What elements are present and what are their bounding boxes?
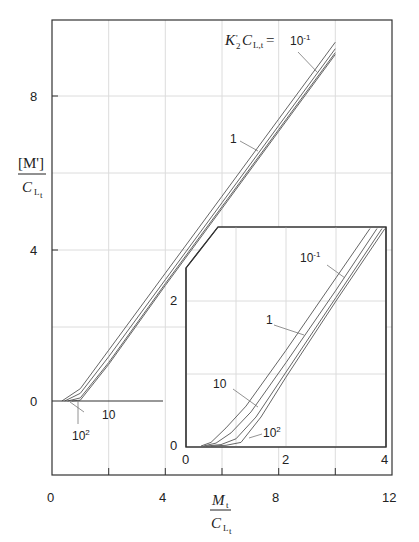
- ann-inset-1: 1: [266, 313, 273, 327]
- inset-x-tick-2: 2: [282, 452, 289, 467]
- x-tick-8: 8: [272, 490, 279, 505]
- svg-text:C: C: [211, 515, 222, 531]
- x-axis-label: M t C L t: [210, 492, 232, 536]
- x-tick-12: 12: [382, 490, 396, 505]
- inset-x-tick-0: 0: [182, 452, 189, 467]
- ann-main-1: 1: [230, 132, 237, 146]
- inset-y-tick-2: 2: [170, 293, 177, 308]
- svg-text:K: K: [224, 32, 236, 48]
- ann-main-10: 10: [102, 408, 116, 422]
- svg-text:L: L: [34, 187, 40, 197]
- x-tick-0: 0: [47, 490, 54, 505]
- inset-x-tick-4: 4: [381, 452, 388, 467]
- legend-title: K ' 2 C L,t =: [224, 32, 274, 51]
- svg-text:t: t: [40, 190, 43, 200]
- ann-inset-10: 10: [213, 377, 227, 391]
- svg-text:=: =: [266, 32, 274, 48]
- svg-text:2: 2: [236, 41, 241, 51]
- y-tick-0: 0: [30, 394, 37, 409]
- ann-main-10e2: 102: [72, 428, 90, 443]
- svg-text:t: t: [229, 526, 232, 536]
- svg-text:C: C: [242, 32, 253, 48]
- svg-text:M: M: [211, 492, 226, 508]
- chart-figure: 8 4 0 0 4 8 12 [M'] C L t M t C L t K ' …: [0, 0, 419, 542]
- svg-text:[M']: [M']: [18, 155, 44, 171]
- y-axis-label: [M'] C L t: [18, 155, 46, 200]
- ann-main-10e-1: 10-1: [290, 33, 311, 48]
- y-tick-4: 4: [30, 243, 37, 258]
- inset-y-tick-0: 0: [170, 438, 177, 453]
- svg-text:C: C: [22, 179, 33, 195]
- svg-text:L: L: [223, 523, 229, 533]
- svg-text:L,t: L,t: [253, 40, 264, 50]
- svg-text:t: t: [226, 500, 229, 510]
- y-tick-8: 8: [30, 89, 37, 104]
- x-tick-4: 4: [159, 490, 166, 505]
